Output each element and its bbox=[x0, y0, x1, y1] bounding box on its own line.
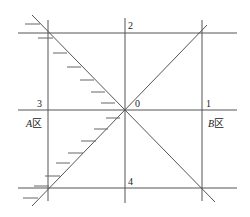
zone-label-a: A区 bbox=[26, 119, 42, 129]
point-label-1: 1 bbox=[206, 99, 211, 109]
point-label-0: 0 bbox=[135, 99, 140, 109]
point-label-2: 2 bbox=[128, 21, 133, 31]
diagonal-line-descending bbox=[32, 15, 215, 202]
zone-b-suffix: 区 bbox=[214, 118, 224, 129]
diagonal-line-ascending bbox=[32, 25, 207, 206]
point-label-4: 4 bbox=[128, 177, 133, 187]
zone-a-suffix: 区 bbox=[32, 118, 42, 129]
hatching-upper bbox=[25, 24, 115, 103]
point-label-3: 3 bbox=[37, 99, 42, 109]
zone-label-b: B区 bbox=[208, 119, 224, 129]
